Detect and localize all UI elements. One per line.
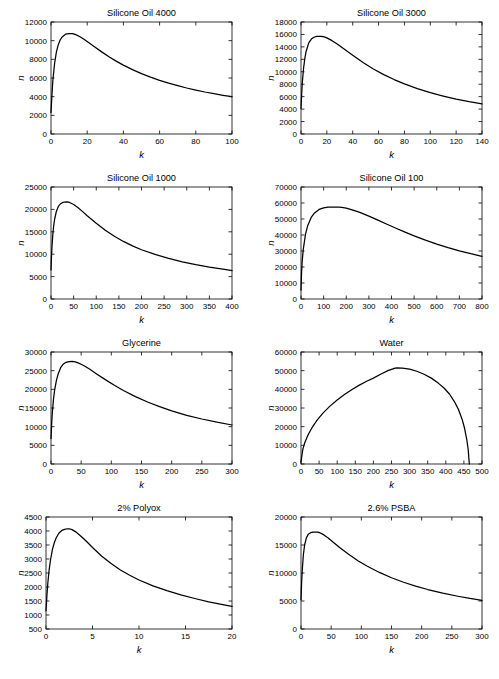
- y-tick-label: 1000: [24, 611, 42, 620]
- y-tick-label: 50000: [275, 215, 298, 224]
- y-tick-label: 10000: [275, 68, 298, 77]
- x-tick-label: 300: [362, 302, 376, 311]
- y-axis-label: n: [15, 405, 26, 410]
- x-tick-label: 300: [225, 467, 239, 476]
- y-tick-label: 2000: [279, 118, 297, 127]
- subplot-title: 2% Polyox: [117, 503, 161, 513]
- x-tick-label: 50: [327, 632, 336, 641]
- data-curve: [51, 34, 232, 113]
- x-tick-label: 10: [135, 632, 144, 641]
- x-tick-label: 20: [83, 137, 92, 146]
- x-tick-label: 700: [453, 302, 467, 311]
- y-tick-label: 2000: [29, 111, 47, 120]
- plot-box: [51, 22, 232, 134]
- y-tick-label: 3500: [24, 541, 42, 550]
- data-curve: [301, 368, 469, 464]
- x-tick-label: 40: [119, 137, 128, 146]
- y-tick-label: 2000: [24, 583, 42, 592]
- y-tick-label: 3000: [24, 555, 42, 564]
- y-tick-label: 0: [43, 130, 48, 139]
- x-tick-label: 250: [157, 302, 171, 311]
- data-curve: [46, 529, 232, 611]
- x-tick-label: 50: [77, 467, 86, 476]
- plot-box: [51, 187, 232, 299]
- subplot-title: Glycerine: [122, 338, 161, 348]
- y-tick-label: 500: [29, 625, 43, 634]
- x-tick-label: 0: [299, 632, 304, 641]
- y-tick-label: 30000: [275, 247, 298, 256]
- y-axis-label: n: [265, 240, 276, 245]
- y-tick-label: 50000: [275, 367, 298, 376]
- x-tick-label: 0: [299, 467, 304, 476]
- data-curve: [51, 361, 232, 438]
- x-tick-label: 300: [403, 467, 417, 476]
- subplot-7: 2% Polyox0510152050010001500200025003000…: [0, 499, 249, 669]
- data-curve: [301, 532, 482, 600]
- x-tick-label: 350: [203, 302, 217, 311]
- subplot-6: Water05010015020025030035040045050001000…: [250, 334, 499, 504]
- y-tick-label: 40000: [275, 231, 298, 240]
- y-tick-label: 5000: [29, 273, 47, 282]
- x-tick-label: 250: [385, 467, 399, 476]
- x-tick-label: 15: [181, 632, 190, 641]
- x-tick-label: 0: [49, 467, 54, 476]
- y-tick-label: 16000: [275, 30, 298, 39]
- y-tick-label: 10000: [25, 37, 48, 46]
- x-tick-label: 0: [44, 632, 49, 641]
- y-axis-label: n: [15, 75, 26, 80]
- y-axis-label: n: [265, 570, 276, 575]
- y-axis-label: n: [15, 570, 26, 575]
- x-tick-label: 0: [299, 137, 304, 146]
- x-tick-label: 0: [49, 137, 54, 146]
- x-tick-label: 20: [228, 632, 237, 641]
- y-tick-label: 2500: [24, 569, 42, 578]
- x-tick-label: 60: [374, 137, 383, 146]
- subplot-2: Silicone Oil 300002040608010012014002000…: [250, 4, 499, 174]
- x-tick-label: 100: [424, 137, 438, 146]
- y-tick-label: 70000: [275, 183, 298, 192]
- x-tick-label: 300: [475, 632, 489, 641]
- x-tick-label: 100: [317, 302, 331, 311]
- y-tick-label: 20000: [275, 423, 298, 432]
- x-tick-label: 50: [69, 302, 78, 311]
- y-tick-label: 4000: [24, 527, 42, 536]
- x-tick-label: 150: [385, 632, 399, 641]
- y-tick-label: 12000: [275, 55, 298, 64]
- y-tick-label: 25000: [25, 367, 48, 376]
- subplot-title: Water: [379, 338, 403, 348]
- y-tick-label: 12000: [25, 18, 48, 27]
- y-tick-label: 5000: [29, 441, 47, 450]
- y-tick-label: 20000: [25, 385, 48, 394]
- x-tick-label: 100: [225, 137, 239, 146]
- y-tick-label: 60000: [275, 348, 298, 357]
- x-tick-label: 500: [475, 467, 489, 476]
- plot-box: [51, 352, 232, 464]
- subplot-3: Silicone Oil 100005010015020025030035040…: [0, 169, 249, 339]
- x-axis-label: k: [389, 479, 395, 490]
- y-tick-label: 0: [43, 295, 48, 304]
- y-tick-label: 30000: [25, 348, 48, 357]
- figure-grid: Silicone Oil 400002040608010002000400060…: [0, 0, 499, 679]
- subplot-8: 2.6% PSBA0501001502002503000500010000150…: [250, 499, 499, 669]
- x-tick-label: 150: [112, 302, 126, 311]
- subplot-1: Silicone Oil 400002040608010002000400060…: [0, 4, 249, 174]
- x-tick-label: 600: [430, 302, 444, 311]
- y-tick-label: 18000: [275, 18, 298, 27]
- subplot-title: Silicone Oil 100: [360, 173, 424, 183]
- y-tick-label: 10000: [275, 441, 298, 450]
- x-tick-label: 0: [49, 302, 54, 311]
- x-tick-label: 80: [191, 137, 200, 146]
- x-tick-label: 80: [400, 137, 409, 146]
- x-tick-label: 800: [475, 302, 489, 311]
- x-tick-label: 100: [355, 632, 369, 641]
- y-tick-label: 30000: [275, 404, 298, 413]
- y-tick-label: 5000: [279, 597, 297, 606]
- data-curve: [51, 202, 232, 271]
- x-tick-label: 450: [457, 467, 471, 476]
- y-tick-label: 6000: [29, 74, 47, 83]
- x-tick-label: 0: [299, 302, 304, 311]
- y-tick-label: 8000: [279, 80, 297, 89]
- y-tick-label: 4000: [279, 105, 297, 114]
- x-tick-label: 100: [105, 467, 119, 476]
- x-tick-label: 250: [195, 467, 209, 476]
